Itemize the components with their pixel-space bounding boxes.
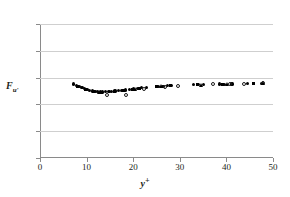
y-axis-label-subscript: u' <box>13 86 19 94</box>
gridline <box>40 24 273 25</box>
data-point-filled-square <box>92 90 95 93</box>
data-point-filled-triangle <box>225 82 229 86</box>
y-tick <box>36 104 40 105</box>
data-point-filled-circle <box>192 83 195 86</box>
data-point-filled-square <box>84 88 87 91</box>
data-point-filled-square <box>155 85 158 88</box>
data-point-open-circle <box>176 84 180 88</box>
data-point-filled-circle <box>117 89 120 92</box>
data-point-filled-triangle <box>159 84 163 88</box>
y-axis-label-base: F <box>6 80 13 91</box>
x-tick-label: 0 <box>20 163 60 172</box>
y-tick <box>36 24 40 25</box>
data-point-filled-square <box>113 90 116 93</box>
data-point-filled-triangle <box>261 81 265 85</box>
data-point-open-circle <box>211 82 215 86</box>
gridline <box>40 78 273 79</box>
y-axis-line <box>40 24 41 158</box>
data-point-open-circle <box>163 85 167 89</box>
data-point-filled-triangle <box>133 87 137 91</box>
y-tick <box>36 78 40 79</box>
data-point-filled-triangle <box>199 83 203 87</box>
data-point-open-circle <box>142 87 146 91</box>
x-tick-label: 50 <box>253 163 290 172</box>
data-point-filled-circle <box>246 82 249 85</box>
data-point-filled-square <box>252 82 255 85</box>
data-point-filled-square <box>122 89 125 92</box>
gridline <box>40 131 273 132</box>
figure: Fu' y+ 012345 01020304050 <box>0 0 290 197</box>
x-tick-label: 30 <box>160 163 200 172</box>
gridline <box>40 104 273 105</box>
data-point-open-circle <box>242 82 246 86</box>
x-axis-label-superscript: + <box>145 176 150 185</box>
x-axis-label: y+ <box>0 176 290 189</box>
x-tick-label: 40 <box>206 163 246 172</box>
data-point-open-circle <box>124 93 128 97</box>
x-axis-line <box>40 157 273 158</box>
data-point-open-circle <box>105 93 109 97</box>
data-point-filled-square <box>169 84 172 87</box>
plot-area: 012345 01020304050 <box>40 24 273 158</box>
y-tick <box>36 131 40 132</box>
data-point-filled-triangle <box>97 90 101 94</box>
data-point-filled-square <box>76 85 79 88</box>
y-tick <box>36 51 40 52</box>
y-axis-label: Fu' <box>6 80 19 94</box>
data-point-filled-square <box>138 87 141 90</box>
x-tick-label: 10 <box>67 163 107 172</box>
x-tick-label: 20 <box>113 163 153 172</box>
gridline <box>40 51 273 52</box>
